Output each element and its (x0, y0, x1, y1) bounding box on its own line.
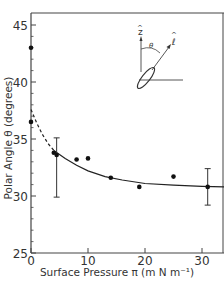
y-tick-label: 40 (13, 76, 28, 90)
data-point (171, 174, 176, 179)
data-point (74, 157, 79, 162)
data-point (29, 120, 34, 125)
data-points (29, 46, 210, 190)
l-axis-arrow (152, 47, 169, 70)
polar-angle-chart: 25303540450102030 z ^ θ ℓ ^ Surface Pres… (0, 0, 224, 282)
y-tick-label: 30 (13, 190, 28, 204)
y-tick-label: 25 (13, 247, 28, 261)
y-tick-label: 45 (13, 19, 28, 33)
data-point (109, 175, 114, 180)
y-axis-label: Polar Angle θ (degrees) (2, 77, 14, 200)
z-hat: ^ (137, 24, 143, 32)
l-hat: ^ (171, 31, 177, 39)
orientation-inset: z ^ θ ℓ ^ (135, 24, 183, 91)
axes (31, 13, 224, 253)
molecule-ellipse (135, 65, 157, 90)
error-bars (54, 138, 211, 205)
inset-theta-label: θ (149, 42, 154, 50)
chart-svg: 25303540450102030 z ^ θ ℓ ^ Surface Pres… (0, 0, 224, 282)
data-point (205, 185, 210, 190)
fit-dashed-line (31, 109, 54, 150)
fit-solid-line (54, 150, 224, 187)
data-point (137, 185, 142, 190)
x-tick-label: 0 (27, 254, 35, 268)
x-axis-label: Surface Pressure π (m N m⁻¹) (40, 266, 194, 278)
y-tick-label: 35 (13, 133, 28, 147)
data-point (29, 46, 34, 51)
x-tick-label: 30 (194, 254, 209, 268)
data-point (54, 153, 59, 158)
fit-lines (31, 109, 224, 186)
data-point (86, 156, 91, 161)
ticks: 25303540450102030 (13, 19, 210, 268)
